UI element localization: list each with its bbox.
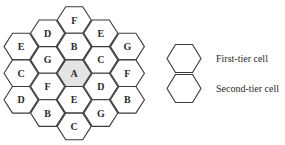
cell-label: B	[124, 94, 131, 105]
cell-label: D	[97, 81, 104, 92]
cell-label: G	[97, 108, 105, 119]
cell-label: E	[97, 28, 104, 39]
cell-label: A	[71, 68, 79, 79]
cell-label: G	[124, 41, 132, 52]
legend-label-second-tier: Second-tier cell	[216, 83, 279, 94]
cell-label: G	[44, 54, 52, 65]
legend-hex-first-tier	[167, 45, 201, 73]
cell-label: C	[97, 54, 104, 65]
cell-label: B	[71, 41, 78, 52]
legend-label-first-tier: First-tier cell	[216, 53, 268, 64]
cell-grid: ECDDGFBFBAECECDGGFB	[4, 7, 144, 140]
legend-item-second-tier: Second-tier cell	[167, 75, 279, 103]
cell-label: D	[44, 28, 51, 39]
cell-label: D	[17, 94, 24, 105]
cell-label: B	[44, 108, 51, 119]
cell-label: E	[71, 94, 78, 105]
cell-label: F	[124, 68, 130, 79]
cell-label: C	[71, 121, 78, 132]
cell-label: E	[18, 41, 25, 52]
legend: First-tier cell Second-tier cell	[167, 45, 279, 103]
legend-item-first-tier: First-tier cell	[167, 45, 268, 73]
cell-label: F	[45, 81, 51, 92]
cell-label: C	[17, 68, 24, 79]
hex-cell-diagram: ECDDGFBFBAECECDGGFB First-tier cell Seco…	[0, 0, 285, 145]
legend-hex-second-tier	[167, 75, 201, 103]
cell-label: F	[71, 15, 77, 26]
